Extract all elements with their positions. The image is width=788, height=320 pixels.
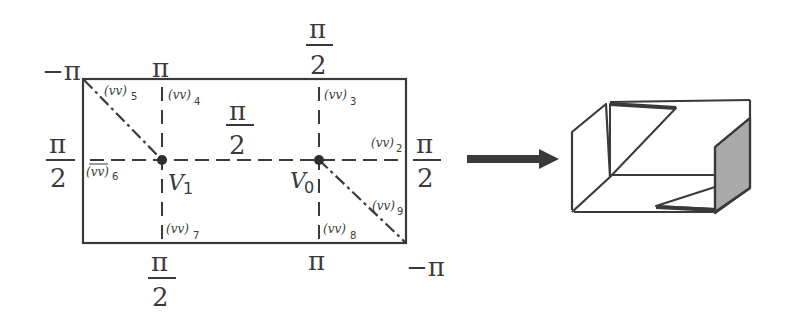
vertex-label-v0: V 0 [290,168,314,197]
top-triangle-flap [610,104,676,177]
folded-box [572,100,750,213]
svg-text:4: 4 [194,96,200,107]
svg-text:π: π [151,247,168,277]
svg-text:(vv): (vv) [86,165,109,179]
label-top-left: −π [42,56,81,86]
svg-text:0: 0 [304,178,314,197]
svg-text:π: π [49,129,66,159]
arrow-right-icon [467,149,559,169]
top-back-edge [610,100,750,102]
svg-text:(vv): (vv) [324,88,347,102]
label-top-v0-fraction: π 2 [306,14,333,80]
vertex-label-v1: V 1 [168,170,193,198]
svg-text:(vv): (vv) [168,88,191,102]
svg-text:8: 8 [350,230,356,241]
svg-text:π: π [229,96,246,126]
label-bottom-v0: π [308,246,325,276]
edge-label-6: (vv) 6 [86,164,118,182]
svg-text:5: 5 [131,91,137,102]
svg-text:2: 2 [310,50,327,80]
edge-label-8: (vv) 8 [323,222,356,241]
svg-text:2: 2 [417,163,434,193]
edge-label-3: (vv) 3 [324,88,356,107]
svg-text:(vv): (vv) [104,84,127,98]
svg-text:9: 9 [397,206,403,217]
label-bottom-right: −π [406,252,445,282]
svg-text:2: 2 [50,163,67,193]
vertex-v0-dot [314,155,324,165]
vertex-v1-dot [157,155,167,165]
folding-diagram: −π −π π π 2 π 2 π π 2 π 2 π 2 V 1 V 0 (v [0,0,788,320]
edge-label-4: (vv) 4 [168,88,200,107]
svg-text:3: 3 [350,96,356,107]
svg-text:π: π [416,129,433,159]
label-bottom-v1-fraction: π 2 [148,247,176,312]
label-right-fraction: π 2 [413,129,441,193]
svg-text:(vv): (vv) [166,222,189,236]
svg-text:2: 2 [229,130,246,160]
svg-text:6: 6 [112,171,118,182]
svg-text:(vv): (vv) [372,199,395,213]
edge-label-5: (vv) 5 [104,84,137,102]
edge-label-2: (vv) 2 [371,136,402,154]
edge-label-7: (vv) 7 [166,222,199,241]
svg-text:2: 2 [152,282,169,312]
label-top-v1: π [152,53,169,83]
svg-text:7: 7 [193,230,199,241]
label-left-fraction: π 2 [46,129,75,193]
svg-text:(vv): (vv) [323,222,346,236]
label-center-fraction: π 2 [226,96,254,160]
svg-text:(vv): (vv) [371,136,394,150]
svg-text:2: 2 [396,143,402,154]
svg-text:1: 1 [183,179,193,198]
svg-text:π: π [309,14,326,44]
